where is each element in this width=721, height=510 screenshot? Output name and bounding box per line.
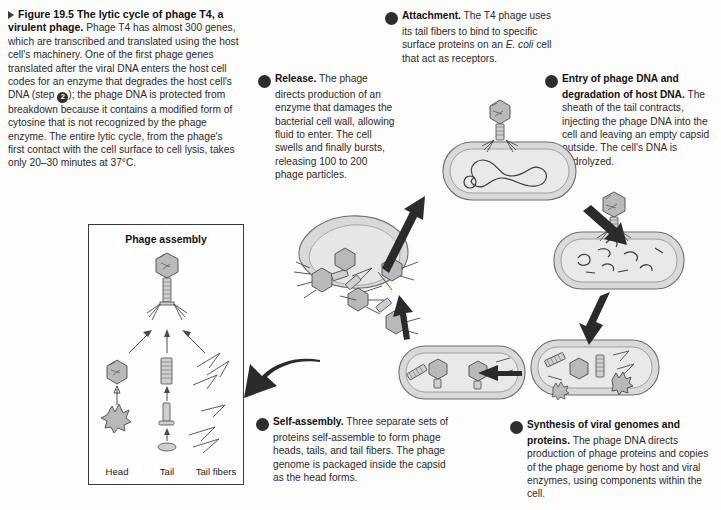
cell-self-assembly xyxy=(399,346,525,399)
phage-assembly-diagram xyxy=(89,225,245,486)
step-2-text: The sheath of the tail contracts, inject… xyxy=(562,89,709,167)
caption-step-badge-2: 2 xyxy=(57,92,68,103)
free-tail-fibers xyxy=(340,268,392,300)
head-component-icon xyxy=(107,360,127,384)
figure-number: Figure 19.5 xyxy=(18,8,74,20)
cell-synthesis xyxy=(531,340,659,400)
assembled-phage-inside-2 xyxy=(469,361,487,389)
empty-capsid-icon xyxy=(597,192,631,241)
arrow-release-to-attachment xyxy=(382,196,425,273)
cell-dna-entry xyxy=(554,192,684,289)
step-badge-4: 4 xyxy=(256,418,269,431)
assembly-label-tail-fibers: Tail fibers xyxy=(189,466,243,477)
tail-fibers-component-icon xyxy=(189,353,229,453)
arrow-entry-to-synthesis xyxy=(579,292,610,345)
step-4-title: Self-assembly. xyxy=(273,416,344,427)
cell-release-burst xyxy=(294,216,420,334)
tail-component-icon xyxy=(161,358,172,384)
step-1-italic: E. coli xyxy=(506,39,534,50)
figure-caption-part2: ); the phage DNA is protected from break… xyxy=(8,89,234,168)
arrow-attachment-to-entry xyxy=(583,205,627,245)
baseplate-icon xyxy=(158,443,176,451)
step-badge-1: 1 xyxy=(385,12,398,25)
step-5-text: The phage directs production of an enzym… xyxy=(275,73,394,180)
assembly-label-tail: Tail xyxy=(143,466,191,477)
released-phage-2 xyxy=(345,275,384,314)
step-5-title: Release. xyxy=(275,73,316,84)
arrow-synthesis-to-assembly xyxy=(478,365,522,381)
step-4-self-assembly: 4Self-assembly. Three separate sets of p… xyxy=(256,415,456,484)
step-badge-3: 3 xyxy=(510,421,523,434)
assembled-phage-inside-1 xyxy=(429,359,447,388)
released-phage-3 xyxy=(376,298,420,334)
step-1-title: Attachment. xyxy=(402,10,461,21)
released-phage-4 xyxy=(335,248,355,271)
step-2-entry: 2Entry of phage DNA and degradation of h… xyxy=(545,72,713,168)
step-badge-2: 2 xyxy=(545,75,558,88)
phage-assembly-title: Phage assembly xyxy=(89,234,243,245)
step-2-title: Entry of phage DNA and degradation of ho… xyxy=(562,73,685,100)
figure-page: Figure 19.5 The lytic cycle of phage T4,… xyxy=(0,0,721,510)
figure-caption: Figure 19.5 The lytic cycle of phage T4,… xyxy=(8,8,241,170)
tail-protein-icon xyxy=(159,403,174,425)
assembly-label-head: Head xyxy=(93,466,141,477)
step-3-synthesis: 3Synthesis of viral genomes and proteins… xyxy=(510,418,715,501)
phage-attached-icon xyxy=(482,100,518,152)
step-5-release: 5Release. The phage directs production o… xyxy=(258,72,398,182)
phage-assembly-box: Phage assembly xyxy=(88,224,244,485)
released-phage-1 xyxy=(294,262,348,298)
arrow-to-phage-assembly-box xyxy=(244,359,320,398)
released-phage-5 xyxy=(382,258,418,281)
step-badge-5: 5 xyxy=(258,75,271,88)
arrow-assembly-to-release xyxy=(393,295,413,340)
head-protein-icon xyxy=(101,404,131,433)
assembled-phage-icon xyxy=(147,253,187,320)
step-1-attachment: 1Attachment. The T4 phage uses its tail … xyxy=(385,9,560,65)
triangle-bullet-icon xyxy=(8,11,14,19)
